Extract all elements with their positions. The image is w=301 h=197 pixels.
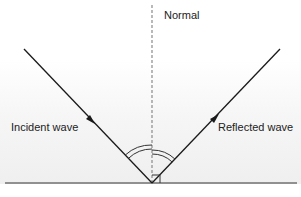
incident-ray: [24, 49, 152, 183]
incident-arrow-icon: [86, 115, 95, 124]
reflected-wave-label: Reflected wave: [218, 122, 293, 133]
normal-label: Normal: [164, 10, 199, 21]
incidence-angle-arc-outer: [125, 145, 152, 155]
reflection-angle-arc-inner: [152, 154, 172, 162]
incident-wave-label: Incident wave: [11, 122, 78, 133]
diagram-canvas: [0, 0, 301, 197]
reflection-diagram: Normal Incident wave Reflected wave: [0, 0, 301, 197]
